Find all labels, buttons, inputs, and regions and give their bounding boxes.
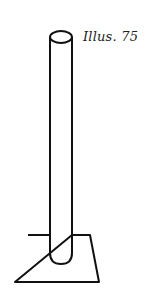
figure-caption: Illus. 75 xyxy=(83,29,138,44)
illustration: Illus. 75 xyxy=(0,0,156,307)
base-plate xyxy=(15,235,99,282)
tube-on-base-drawing xyxy=(0,0,156,307)
tube-bottom xyxy=(50,253,72,264)
tube-top-opening xyxy=(50,31,72,43)
